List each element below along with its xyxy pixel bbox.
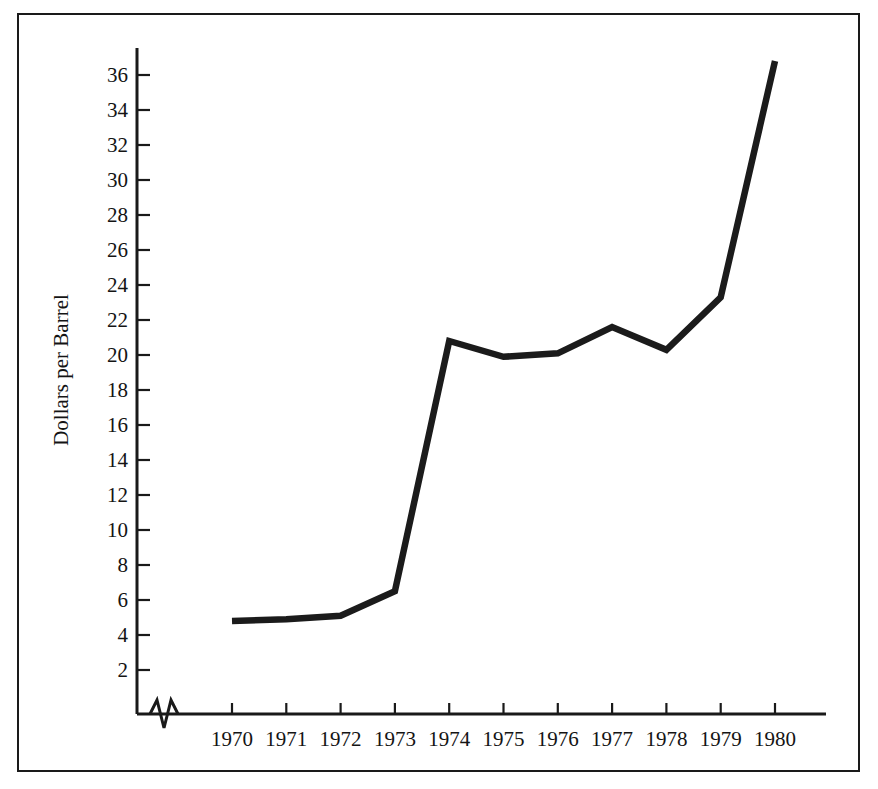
y-tick-label: 24: [107, 273, 129, 297]
y-tick-label: 4: [118, 623, 129, 647]
y-tick-label: 20: [107, 343, 128, 367]
x-tick-label: 1972: [320, 727, 362, 751]
x-tick-label: 1974: [428, 727, 471, 751]
y-tick-label: 26: [107, 238, 128, 262]
y-tick-label: 14: [107, 448, 129, 472]
y-tick-label: 30: [107, 168, 128, 192]
y-tick-label: 16: [107, 413, 128, 437]
data-series-line: [232, 61, 775, 621]
y-tick-label: 36: [107, 63, 128, 87]
y-tick-label: 22: [107, 308, 128, 332]
y-axis-title: Dollars per Barrel: [49, 294, 73, 446]
y-tick-label: 32: [107, 133, 128, 157]
x-tick-marks: [232, 703, 775, 714]
y-tick-label: 12: [107, 483, 128, 507]
line-chart: 36343230282624222018161412108642 1970197…: [0, 0, 878, 789]
x-tick-label: 1976: [537, 727, 579, 751]
y-tick-label: 6: [118, 588, 129, 612]
chart-plot-area: 36343230282624222018161412108642 1970197…: [0, 0, 878, 789]
x-tick-label: 1971: [265, 727, 307, 751]
x-tick-label: 1970: [211, 727, 253, 751]
y-tick-label: 28: [107, 203, 128, 227]
y-tick-label: 2: [118, 658, 129, 682]
x-tick-label: 1973: [374, 727, 416, 751]
x-tick-label: 1977: [591, 727, 633, 751]
y-tick-label: 8: [118, 553, 129, 577]
y-tick-label: 18: [107, 378, 128, 402]
y-tick-marks: [137, 75, 150, 670]
y-tick-labels: 36343230282624222018161412108642: [107, 63, 129, 682]
x-tick-label: 1978: [645, 727, 687, 751]
x-tick-label: 1975: [483, 727, 525, 751]
x-tick-label: 1980: [754, 727, 796, 751]
x-tick-labels: 1970197119721973197419751976197719781979…: [211, 727, 796, 751]
x-tick-label: 1979: [700, 727, 742, 751]
y-tick-label: 34: [107, 98, 129, 122]
y-tick-label: 10: [107, 518, 128, 542]
